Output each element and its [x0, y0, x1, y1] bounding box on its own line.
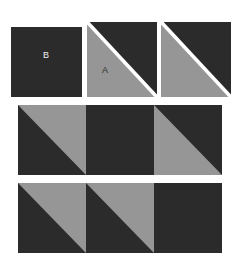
assembled-strip-middle [18, 105, 222, 175]
middle-cell-3 [154, 105, 222, 175]
piece-b [11, 27, 82, 97]
middle-cell-2-base [86, 105, 154, 175]
bottom-cell-3-base [154, 183, 222, 253]
triangle-tiling-figure: BA [0, 0, 240, 270]
bottom-cell-2 [86, 183, 154, 253]
bottom-cell-3 [154, 183, 222, 253]
assembled-strip-bottom [18, 183, 222, 253]
piece-b-square [11, 27, 82, 97]
bottom-cell-1 [18, 183, 86, 253]
middle-cell-1 [18, 105, 86, 175]
middle-cell-2 [86, 105, 154, 175]
